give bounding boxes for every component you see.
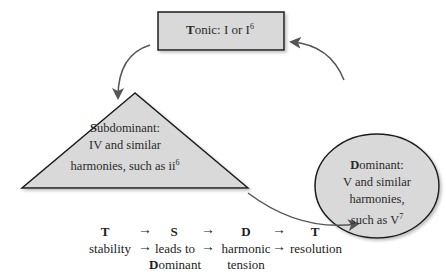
arrow-icon: → <box>138 222 152 238</box>
legend-header-s: S <box>159 224 189 240</box>
legend-desc-leads-to: leads to Dominant <box>148 241 202 273</box>
legend-desc-resolution: resolution <box>284 241 348 257</box>
arrow-icon: → <box>272 222 286 238</box>
legend: T → S → D → T stability → leads to Domin… <box>0 0 446 279</box>
legend-header-t2: T <box>300 224 330 240</box>
legend-header-d: D <box>231 224 261 240</box>
legend-desc-harmonic-tension: harmonic tension <box>216 241 276 273</box>
legend-desc-stability: stability <box>80 241 140 257</box>
arrow-icon: → <box>201 222 215 238</box>
legend-header-t1: T <box>90 224 120 240</box>
arrow-icon: → <box>201 239 215 255</box>
